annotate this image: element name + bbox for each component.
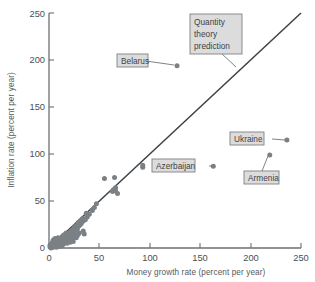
callout-azerbaijan-label: Azerbaijan <box>156 161 196 171</box>
data-point <box>140 165 145 170</box>
y-tick-label-0: 0 <box>40 243 45 253</box>
callout-belarus-label: Belarus <box>121 56 149 66</box>
scatter-chart: 0 50 100 150 200 250 0 50 100 150 200 25… <box>0 0 315 282</box>
y-axis-title: Inflation rate (percent per year) <box>7 72 16 188</box>
data-point <box>175 63 180 68</box>
callout-ukraine-label: Ukraine <box>234 134 263 144</box>
callout-belarus[interactable]: Belarus <box>117 54 149 67</box>
data-point <box>52 245 57 250</box>
callout-armenia-label: Armenia <box>248 173 279 183</box>
x-tick-label-150: 150 <box>192 253 208 263</box>
callout-ukraine[interactable]: Ukraine <box>230 132 264 145</box>
data-point <box>115 191 120 196</box>
data-point <box>111 187 116 192</box>
chart-background <box>0 0 315 282</box>
data-point <box>284 137 289 142</box>
callout-quantity-theory[interactable]: Quantity theory prediction <box>190 14 242 54</box>
callout-armenia[interactable]: Armenia <box>244 171 279 184</box>
data-point <box>69 235 74 240</box>
x-axis-title: Money growth rate (percent per year) <box>127 268 266 277</box>
y-tick-label-150: 150 <box>29 102 45 112</box>
x-tick-label-200: 200 <box>243 253 259 263</box>
y-tick-label-200: 200 <box>29 55 45 65</box>
callout-quantity-theory-line3: prediction <box>194 41 230 51</box>
callout-quantity-theory-line2: theory <box>194 29 218 39</box>
data-point <box>112 175 117 180</box>
y-tick-label-100: 100 <box>29 149 45 159</box>
x-tick-label-250: 250 <box>293 253 309 263</box>
callout-quantity-theory-line1: Quantity <box>194 17 226 27</box>
x-tick-label-0: 0 <box>46 253 51 263</box>
data-point <box>82 231 87 236</box>
data-point <box>102 176 107 181</box>
data-point <box>84 211 89 216</box>
data-point <box>76 231 81 236</box>
callout-azerbaijan[interactable]: Azerbaijan <box>152 159 196 172</box>
x-tick-label-50: 50 <box>94 253 104 263</box>
x-tick-label-100: 100 <box>142 253 158 263</box>
y-tick-label-250: 250 <box>29 9 45 19</box>
y-tick-label-50: 50 <box>35 196 45 206</box>
